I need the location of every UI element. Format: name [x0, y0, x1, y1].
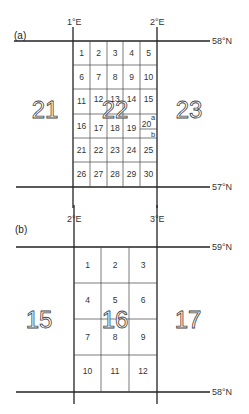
block-4: 4: [85, 295, 90, 305]
panel-a-label: (a): [14, 30, 26, 41]
block-12: 12: [138, 366, 148, 376]
block-11: 11: [77, 96, 86, 106]
panel-b: (b) 2°E 3°E 59°N 58°N 15 16 17 1 2 3 4 5…: [15, 205, 232, 404]
lat-59n-label: 59°N: [212, 242, 232, 252]
quadrant-16: 16: [102, 306, 129, 333]
block-6: 6: [79, 72, 84, 82]
block-21: 21: [77, 145, 87, 155]
quadrant-15: 15: [26, 306, 53, 333]
block-5: 5: [113, 295, 118, 305]
block-5: 5: [146, 48, 151, 58]
block-26: 26: [77, 169, 87, 179]
block-30: 30: [144, 169, 154, 179]
block-4: 4: [129, 48, 134, 58]
lon-1e-label: 1°E: [67, 17, 82, 27]
block-28: 28: [110, 169, 120, 179]
block-9: 9: [129, 72, 134, 82]
block-22: 22: [94, 145, 104, 155]
block-7: 7: [85, 332, 90, 342]
block-27: 27: [94, 169, 104, 179]
block-14: 14: [127, 94, 137, 104]
lat-58n-label: 58°N: [212, 36, 232, 46]
block-8: 8: [113, 72, 118, 82]
panel-b-label: (b): [15, 224, 27, 235]
block-8: 8: [113, 332, 118, 342]
block-19: 19: [127, 123, 137, 133]
block-24: 24: [127, 145, 137, 155]
lon-2e-label: 2°E: [150, 17, 165, 27]
block-2: 2: [113, 260, 118, 270]
block-12: 12: [94, 94, 104, 104]
block-9: 9: [141, 332, 146, 342]
block-3: 3: [141, 260, 146, 270]
block-1: 1: [85, 260, 90, 270]
block-20b: b: [151, 130, 155, 139]
lat-57n-label: 57°N: [212, 182, 232, 192]
block-16: 16: [77, 121, 87, 131]
block-10: 10: [83, 366, 93, 376]
quadrant-block-diagram: (a) 1°E 2°E 58°N 57°N 21 22 23 1 2 3: [0, 0, 249, 414]
block-18: 18: [110, 123, 120, 133]
block-17: 17: [94, 123, 104, 133]
block-23: 23: [110, 145, 120, 155]
block-7: 7: [96, 72, 101, 82]
block-29: 29: [127, 169, 137, 179]
quadrant-23: 23: [176, 96, 203, 123]
block-13: 13: [110, 94, 120, 104]
block-10: 10: [144, 72, 154, 82]
block-1: 1: [79, 48, 84, 58]
block-25: 25: [144, 145, 154, 155]
panel-a: (a) 1°E 2°E 58°N 57°N 21 22 23 1 2 3: [14, 17, 232, 208]
block-11: 11: [111, 366, 120, 376]
block-2: 2: [96, 48, 101, 58]
lat-58n-label: 58°N: [212, 387, 232, 397]
quadrant-17: 17: [175, 306, 202, 333]
block-6: 6: [141, 295, 146, 305]
block-3: 3: [113, 48, 118, 58]
block-15: 15: [144, 94, 154, 104]
quadrant-21: 21: [32, 96, 59, 123]
